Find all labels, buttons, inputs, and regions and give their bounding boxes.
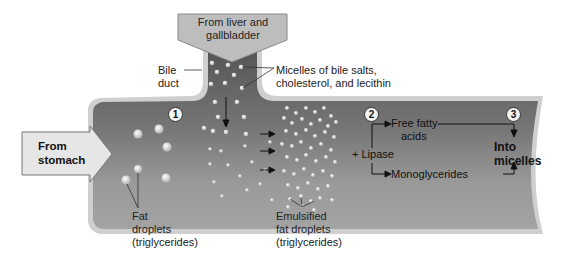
step-1-badge: 1	[168, 107, 183, 122]
lipase-label: + Lipase	[352, 148, 394, 161]
step-2-badge: 2	[364, 107, 379, 122]
from-liver-line2: gallbladder	[195, 29, 271, 42]
bile-duct-line1: Bile	[158, 64, 179, 77]
from-liver-label: From liver and gallbladder	[195, 16, 271, 42]
micelles-line1: Micelles of bile salts,	[276, 64, 391, 77]
emulsified-line2: fat droplets	[276, 223, 342, 236]
into-micelles-line2: micelles	[494, 154, 541, 168]
fat-droplets-line2: droplets	[132, 223, 198, 236]
micelles-line2: cholesterol, and lecithin	[276, 77, 391, 90]
free-fatty-line2: acids	[391, 130, 437, 143]
into-micelles-label: Into micelles	[494, 140, 541, 168]
emulsified-line1: Emulsified	[276, 210, 342, 223]
from-liver-line1: From liver and	[195, 16, 271, 29]
step-3-badge: 3	[506, 107, 521, 122]
into-micelles-line1: Into	[494, 140, 541, 154]
from-stomach-line2: stomach	[38, 153, 85, 167]
emulsified-label: Emulsified fat droplets (triglycerides)	[276, 210, 342, 249]
from-stomach-label: From stomach	[38, 139, 85, 167]
free-fatty-acids-label: Free fatty acids	[391, 117, 437, 143]
fat-droplets-line1: Fat	[132, 210, 198, 223]
free-fatty-line1: Free fatty	[391, 117, 437, 130]
bile-duct-label: Bile duct	[158, 64, 179, 90]
micelles-label: Micelles of bile salts, cholesterol, and…	[276, 64, 391, 90]
bile-duct-line2: duct	[158, 77, 179, 90]
from-stomach-line1: From	[38, 139, 85, 153]
monoglycerides-label: Monoglycerides	[391, 168, 468, 181]
emulsified-line3: (triglycerides)	[276, 236, 342, 249]
fat-droplets-line3: (triglycerides)	[132, 236, 198, 249]
fat-droplets-label: Fat droplets (triglycerides)	[132, 210, 198, 249]
